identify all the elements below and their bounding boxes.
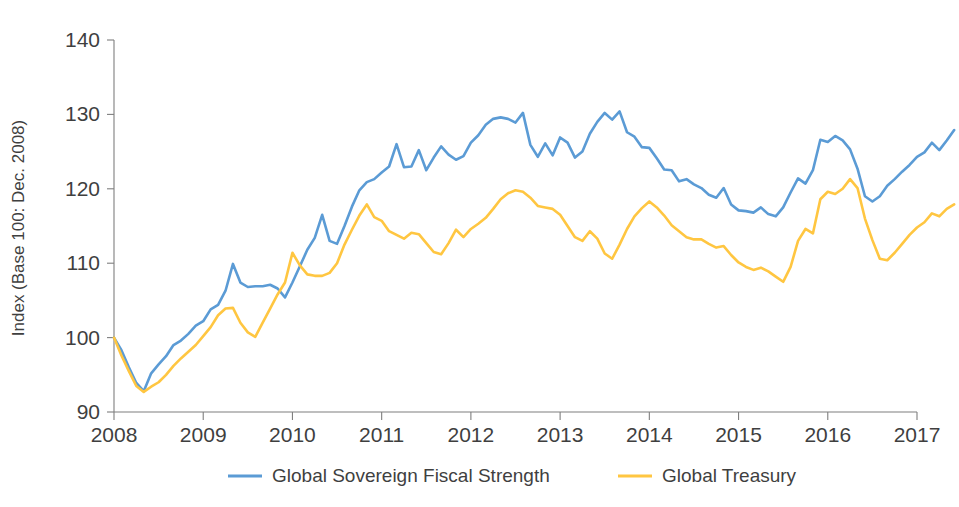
y-tick-label: 120 [65, 177, 100, 200]
y-axis-title: Index (Base 100: Dec. 2008) [9, 120, 28, 336]
x-tick-label: 2011 [359, 423, 404, 446]
chart-container: 90100110120130140 2008200920102011201220… [0, 0, 959, 507]
x-tick-label: 2012 [448, 423, 495, 446]
y-axis-title-label: Index (Base 100: Dec. 2008) [9, 120, 28, 336]
y-tick-label: 140 [65, 28, 100, 51]
y-axis: 90100110120130140 [65, 28, 114, 423]
legend-label-sovereign-fiscal-strength: Global Sovereign Fiscal Strength [272, 465, 550, 486]
x-axis: 2008200920102011201220132014201520162017 [91, 412, 941, 446]
y-tick-group: 90100110120130140 [65, 28, 114, 423]
x-tick-label: 2016 [804, 423, 851, 446]
y-tick-label: 100 [65, 326, 100, 349]
x-tick-label: 2009 [180, 423, 227, 446]
x-tick-group: 2008200920102011201220132014201520162017 [91, 412, 941, 446]
legend-label-global-treasury: Global Treasury [662, 465, 797, 486]
series-group [114, 111, 954, 391]
x-tick-label: 2008 [91, 423, 138, 446]
y-tick-label: 110 [67, 251, 100, 274]
series-line-sovereign-fiscal-strength [114, 111, 954, 391]
series-line-global-treasury [114, 179, 954, 392]
y-tick-label: 90 [77, 400, 100, 423]
chart-legend: Global Sovereign Fiscal StrengthGlobal T… [228, 465, 797, 486]
line-chart: 90100110120130140 2008200920102011201220… [0, 0, 959, 507]
x-tick-label: 2010 [269, 423, 316, 446]
y-tick-label: 130 [65, 102, 100, 125]
x-tick-label: 2013 [537, 423, 584, 446]
x-tick-label: 2014 [626, 423, 673, 446]
x-tick-label: 2017 [894, 423, 941, 446]
x-tick-label: 2015 [715, 423, 762, 446]
